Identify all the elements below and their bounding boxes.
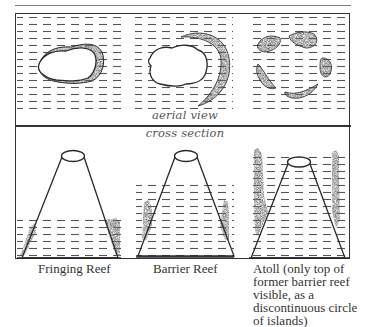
caption-line: Barrier Reef (153, 262, 218, 275)
caption-atoll: Atoll (only top of former barrier reef v… (253, 262, 357, 327)
caption-fringing-reef: Fringing Reef (38, 262, 111, 275)
cross-section-label: cross section (135, 126, 235, 140)
aerial-view-label: aerial view (135, 108, 235, 122)
aerial-fringing (17, 17, 121, 109)
cross-barrier (136, 151, 234, 259)
caption-line: Fringing Reef (38, 262, 111, 275)
aerial-atoll (248, 17, 350, 109)
aerial-barrier (135, 17, 233, 109)
caption-barrier-reef: Barrier Reef (153, 262, 218, 275)
cross-atoll (249, 148, 350, 258)
cross-fringing (17, 151, 121, 259)
caption-line: of islands) (253, 314, 357, 327)
